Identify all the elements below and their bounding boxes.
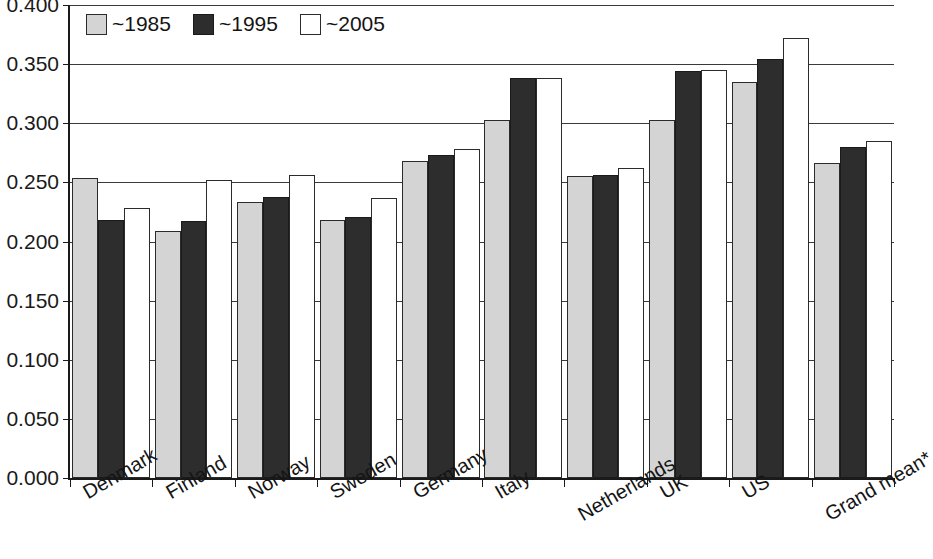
- y-axis-tick: [63, 478, 70, 479]
- bar-group: [729, 5, 811, 478]
- bar-group: [70, 5, 152, 478]
- bar-group: [647, 5, 729, 478]
- y-axis-tick: [63, 242, 70, 243]
- bar-group: [317, 5, 399, 478]
- plot-area: [68, 5, 894, 480]
- y-axis-tick: [63, 419, 70, 420]
- y-axis-tick: [63, 360, 70, 361]
- y-axis-tick-label: 0.050: [6, 407, 59, 431]
- bar-group: [400, 5, 482, 478]
- bar: [181, 221, 207, 478]
- bar: [757, 59, 783, 478]
- bar: [371, 198, 397, 478]
- bar: [783, 38, 809, 478]
- y-axis-tick-label: 0.300: [6, 111, 59, 135]
- y-axis-tick: [63, 5, 70, 6]
- y-axis-tick: [63, 301, 70, 302]
- y-axis-tick-label: 0.150: [6, 289, 59, 313]
- legend-item: ~1995: [193, 12, 278, 36]
- bar: [675, 71, 701, 478]
- bar: [567, 176, 593, 478]
- bar-group: [564, 5, 646, 478]
- y-axis-tick-label: 0.000: [6, 466, 59, 490]
- bar: [536, 78, 562, 478]
- bar: [618, 168, 644, 478]
- bar: [155, 231, 181, 478]
- bar: [814, 163, 840, 478]
- chart-legend: ~1985~1995~2005: [86, 12, 385, 36]
- bar-group: [152, 5, 234, 478]
- y-axis-tick: [63, 182, 70, 183]
- bar: [124, 208, 150, 478]
- legend-label: ~1995: [219, 12, 278, 36]
- x-axis-category-labels: DenmarkFinlandNorwaySwedenGermanyItalyNe…: [68, 484, 892, 559]
- legend-item: ~2005: [300, 12, 385, 36]
- light-gray-swatch: [86, 14, 107, 35]
- bar: [649, 120, 675, 478]
- dark-swatch: [193, 14, 214, 35]
- bar: [263, 197, 289, 478]
- bar-group: [235, 5, 317, 478]
- bar-group: [482, 5, 564, 478]
- y-axis-tick: [63, 123, 70, 124]
- bar: [428, 155, 454, 478]
- bar: [402, 161, 428, 478]
- y-axis-tick-label: 0.350: [6, 52, 59, 76]
- bar: [345, 217, 371, 478]
- bar: [866, 141, 892, 478]
- y-axis-tick-label: 0.400: [6, 0, 59, 17]
- bar: [72, 178, 98, 478]
- bar: [593, 175, 619, 478]
- y-axis-tick-label: 0.100: [6, 348, 59, 372]
- bar: [237, 202, 263, 478]
- y-axis-tick: [63, 64, 70, 65]
- bar: [320, 220, 346, 478]
- bar: [98, 220, 124, 478]
- bar: [484, 120, 510, 478]
- legend-label: ~2005: [326, 12, 385, 36]
- white-swatch: [300, 14, 321, 35]
- bar: [732, 82, 758, 478]
- legend-label: ~1985: [112, 12, 171, 36]
- bar: [454, 149, 480, 478]
- y-axis-tick-label: 0.250: [6, 170, 59, 194]
- bar-group: [812, 5, 894, 478]
- bar: [206, 180, 232, 478]
- bar: [701, 70, 727, 478]
- bar: [510, 78, 536, 478]
- legend-item: ~1985: [86, 12, 171, 36]
- y-axis-tick-label: 0.200: [6, 230, 59, 254]
- bar: [840, 147, 866, 478]
- bar: [289, 175, 315, 478]
- bar-series-container: [70, 5, 894, 478]
